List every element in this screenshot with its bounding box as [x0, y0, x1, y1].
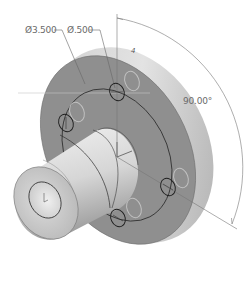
hole-count-marker: 4	[131, 48, 135, 55]
part-drawing	[0, 0, 245, 282]
hole-diameter-label[interactable]: Ø.500	[67, 26, 93, 35]
cad-viewport[interactable]: Ø3.500 Ø.500 90.00° 4	[0, 0, 245, 282]
bolt-circle-diameter-label[interactable]: Ø3.500	[25, 26, 57, 35]
angle-dimension-label[interactable]: 90.00°	[183, 97, 212, 106]
